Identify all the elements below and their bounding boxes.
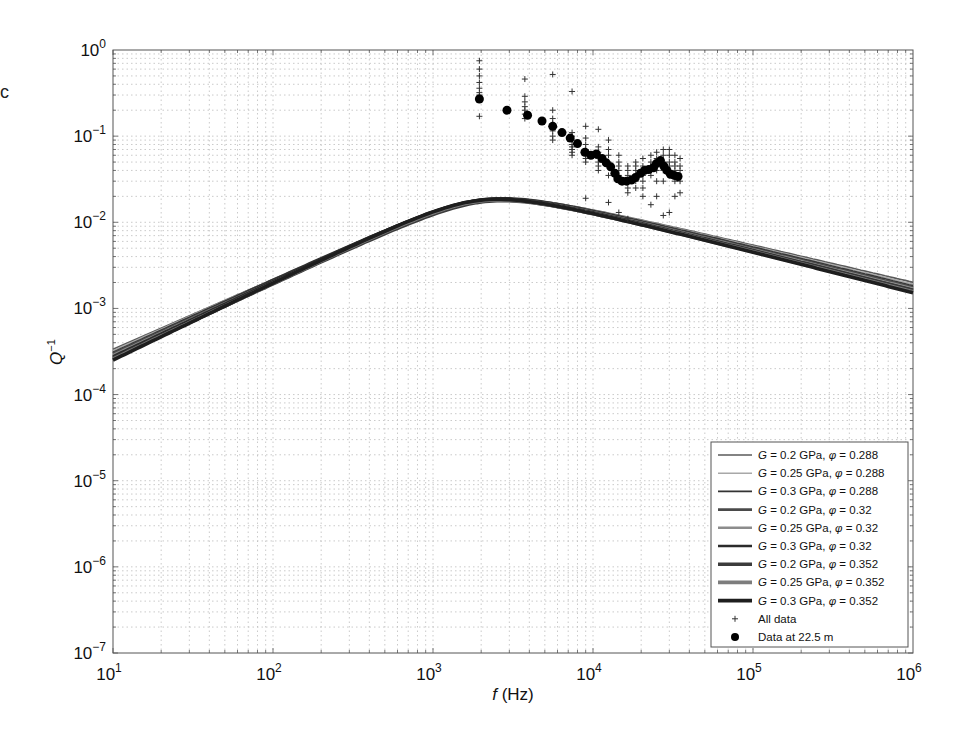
all-data-point — [640, 178, 646, 184]
y-axis-label: Q−1 — [45, 339, 66, 365]
depth-data-point — [548, 122, 557, 131]
model-curve — [113, 200, 913, 359]
legend-depth-data-label: Data at 22.5 m — [758, 631, 833, 643]
x-tick-label: 103 — [416, 661, 442, 684]
model-curve — [113, 199, 913, 360]
all-data-point — [666, 152, 672, 158]
all-data-point — [476, 58, 482, 64]
depth-data-point — [523, 111, 532, 120]
all-data-point — [654, 193, 660, 199]
legend-item-label: G = 0.25 GPa, φ = 0.352 — [758, 576, 884, 588]
all-data-point — [666, 146, 672, 152]
depth-data-point — [573, 139, 582, 148]
all-data-point — [648, 202, 654, 208]
model-curve — [113, 199, 913, 349]
legend-item-label: G = 0.3 GPa, φ = 0.32 — [758, 540, 872, 552]
legend-dot-marker — [731, 633, 739, 641]
log-log-chart: 10110210310410510610010−110−210−310−410−… — [0, 0, 971, 749]
x-tick-label: 106 — [896, 661, 922, 684]
all-data-point — [677, 190, 683, 196]
all-data-point — [522, 93, 528, 99]
all-data-point — [522, 76, 528, 82]
all-data-point — [583, 135, 589, 141]
depth-data-point — [557, 128, 566, 137]
x-tick-label: 105 — [736, 661, 762, 684]
all-data-point — [654, 149, 660, 155]
all-data-point — [606, 199, 612, 205]
all-data-point — [672, 193, 678, 199]
all-data-point — [640, 156, 646, 162]
svg-text:Q−1: Q−1 — [45, 339, 66, 365]
all-data-point — [595, 167, 601, 173]
legend-item-label: G = 0.25 GPa, φ = 0.32 — [758, 522, 878, 534]
model-curve — [113, 200, 913, 354]
all-data-point — [648, 152, 654, 158]
x-tick-label: 101 — [96, 661, 122, 684]
legend-item-label: G = 0.2 GPa, φ = 0.32 — [758, 504, 872, 516]
depth-data-point — [674, 172, 683, 181]
legend-item-label: G = 0.3 GPa, φ = 0.288 — [758, 485, 878, 497]
depth-data-point — [502, 106, 511, 115]
all-data-point — [633, 185, 639, 191]
legend-item-label: G = 0.25 GPa, φ = 0.288 — [758, 467, 884, 479]
all-data-point — [625, 190, 631, 196]
all-data-point — [583, 159, 589, 165]
all-data-point — [595, 126, 601, 132]
y-tick-label: 10−2 — [73, 209, 106, 232]
legend-item-label: G = 0.3 GPa, φ = 0.352 — [758, 595, 878, 607]
all-data-point — [550, 71, 556, 77]
all-data-point — [606, 137, 612, 143]
y-tick-label: 10−1 — [73, 123, 106, 146]
depth-data-point — [566, 134, 575, 143]
y-tick-label: 100 — [80, 37, 106, 60]
y-tick-label: 10−5 — [73, 468, 106, 491]
depth-data-point — [537, 116, 546, 125]
legend: G = 0.2 GPa, φ = 0.288G = 0.25 GPa, φ = … — [711, 442, 908, 647]
x-tick-label: 102 — [256, 661, 282, 684]
legend-item-label: G = 0.2 GPa, φ = 0.288 — [758, 449, 878, 461]
all-data-point — [550, 137, 556, 143]
all-data-point — [550, 107, 556, 113]
legend-all-data-label: All data — [758, 613, 797, 625]
legend-item-label: G = 0.2 GPa, φ = 0.352 — [758, 558, 878, 570]
all-data-point — [660, 178, 666, 184]
x-tick-label: 104 — [576, 661, 602, 684]
all-data-point — [476, 66, 482, 72]
model-curve — [113, 199, 913, 355]
all-data-point — [569, 88, 575, 94]
all-data-point — [476, 79, 482, 85]
all-data-point — [660, 212, 666, 218]
all-data-point — [583, 195, 589, 201]
y-tick-label: 10−4 — [73, 382, 106, 405]
y-tick-label: 10−3 — [73, 295, 106, 318]
y-tick-label: 10−7 — [73, 640, 106, 663]
all-data-point — [606, 146, 612, 152]
y-tick-label: 10−6 — [73, 554, 106, 577]
all-data-point — [666, 209, 672, 215]
all-data-point — [677, 156, 683, 162]
all-data-point — [583, 123, 589, 129]
all-data-point — [616, 152, 622, 158]
all-data-point — [660, 146, 666, 152]
all-data-point — [654, 178, 660, 184]
x-axis-label: f (Hz) — [492, 685, 534, 704]
depth-data-point — [475, 94, 484, 103]
all-data-point — [672, 152, 678, 158]
all-data-point — [569, 152, 575, 158]
model-curve — [113, 198, 913, 353]
